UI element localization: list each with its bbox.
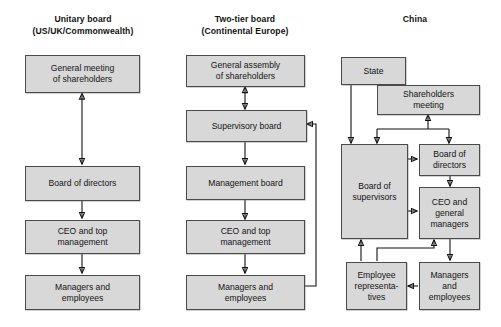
node-label: Board ofdirectors	[433, 149, 466, 171]
edge-c6-c5-elbow	[377, 240, 434, 261]
node-label: Managersandemployees	[429, 270, 471, 303]
node-label: CEO and topmanagement	[220, 226, 270, 248]
node-managers-and-employees-twotier[interactable]: Managers andemployees	[186, 275, 305, 310]
column-title-china-line1: China	[335, 14, 495, 26]
node-ceo-and-general-managers[interactable]: CEO andgeneralmanagers	[419, 187, 480, 239]
node-board-of-directors-china[interactable]: Board ofdirectors	[419, 144, 480, 176]
column-title-china: China	[335, 14, 495, 26]
node-employee-representatives[interactable]: Employeerepresenta-tives	[346, 262, 407, 310]
node-label: Supervisory board	[212, 121, 282, 132]
node-label: Board ofsupervisors	[353, 181, 397, 203]
node-label: State	[363, 66, 383, 77]
node-shareholders-meeting[interactable]: Shareholdersmeeting	[377, 85, 480, 115]
node-label: General assemblyof shareholders	[211, 60, 280, 82]
node-ceo-and-top-management[interactable]: CEO and topmanagement	[25, 220, 140, 254]
node-label: CEO andgeneralmanagers	[430, 197, 468, 230]
node-label: Managers andemployees	[218, 282, 273, 304]
node-label: Shareholdersmeeting	[403, 89, 454, 111]
node-label: Board of directors	[49, 178, 117, 189]
node-managers-and-employees-china[interactable]: Managersandemployees	[419, 262, 480, 310]
node-ceo-and-top-management-twotier[interactable]: CEO and topmanagement	[186, 220, 305, 254]
node-supervisory-board[interactable]: Supervisory board	[186, 110, 307, 142]
node-managers-and-employees[interactable]: Managers andemployees	[25, 275, 140, 310]
node-label: CEO and topmanagement	[57, 226, 107, 248]
edge-t5-t2-feedback	[305, 124, 316, 286]
column-title-unitary-line1: Unitary board	[8, 14, 158, 26]
node-management-board[interactable]: Management board	[186, 166, 305, 200]
node-board-of-directors[interactable]: Board of directors	[25, 166, 140, 201]
node-label: Management board	[208, 178, 283, 189]
node-state[interactable]: State	[341, 57, 406, 85]
column-title-unitary: Unitary board (US/UK/Commonwealth)	[8, 14, 158, 37]
column-title-twotier-line1: Two-tier board	[170, 14, 320, 26]
node-general-meeting-of-shareholders[interactable]: General meetingof shareholders	[25, 55, 140, 93]
node-general-assembly-of-shareholders[interactable]: General assemblyof shareholders	[186, 55, 305, 87]
governance-comparison-diagram: Unitary board (US/UK/Commonwealth) Two-t…	[0, 0, 501, 327]
node-label: Employeerepresenta-tives	[355, 270, 399, 303]
node-label: General meetingof shareholders	[51, 63, 115, 85]
node-label: Managers andemployees	[55, 282, 110, 304]
column-title-twotier: Two-tier board (Continental Europe)	[170, 14, 320, 37]
column-title-unitary-line2: (US/UK/Commonwealth)	[8, 26, 158, 38]
node-board-of-supervisors[interactable]: Board ofsupervisors	[341, 144, 408, 239]
column-title-twotier-line2: (Continental Europe)	[170, 26, 320, 38]
